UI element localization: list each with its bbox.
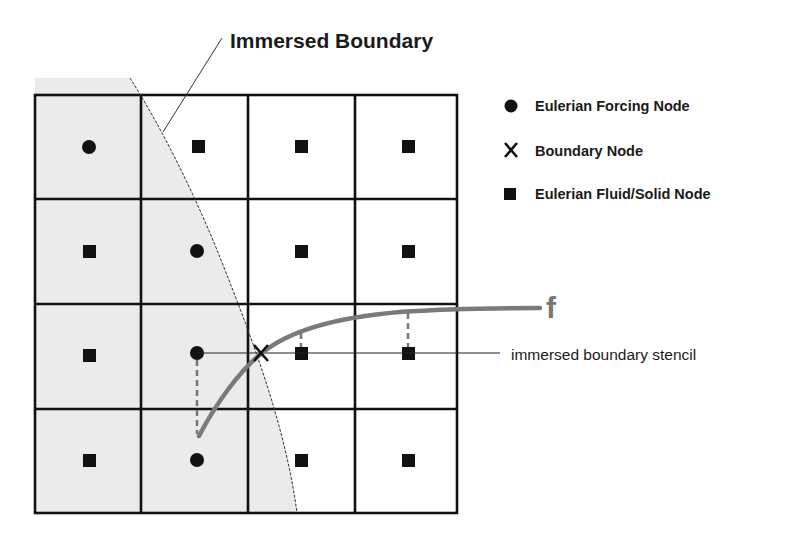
filled-square-icon (504, 188, 516, 200)
legend-label-boundary-node: Boundary Node (535, 143, 643, 159)
title-leader-line (163, 38, 222, 132)
solid-node (83, 454, 96, 467)
fluid-node (295, 245, 308, 258)
fluid-node (402, 454, 415, 467)
forcing-node (190, 244, 204, 258)
legend: Eulerian Forcing Node Boundary Node Eule… (504, 98, 711, 202)
forcing-node (190, 453, 204, 467)
solid-node (83, 349, 96, 362)
solid-region (35, 78, 297, 513)
solid-node (83, 245, 96, 258)
diagram-title: Immersed Boundary (230, 29, 433, 52)
fluid-node (295, 454, 308, 467)
forcing-node (82, 140, 96, 154)
x-mark-icon (505, 143, 517, 157)
legend-label-fluid-solid-node: Eulerian Fluid/Solid Node (535, 186, 711, 202)
fluid-node (402, 245, 415, 258)
fluid-node (402, 140, 415, 153)
f-label: f (546, 291, 557, 324)
fluid-node (295, 140, 308, 153)
fluid-node (192, 140, 205, 153)
stencil-label: immersed boundary stencil (511, 346, 696, 363)
legend-label-forcing-node: Eulerian Forcing Node (535, 98, 690, 114)
filled-circle-icon (505, 100, 518, 113)
immersed-boundary-diagram: Immersed Boundary f imme (0, 0, 785, 539)
